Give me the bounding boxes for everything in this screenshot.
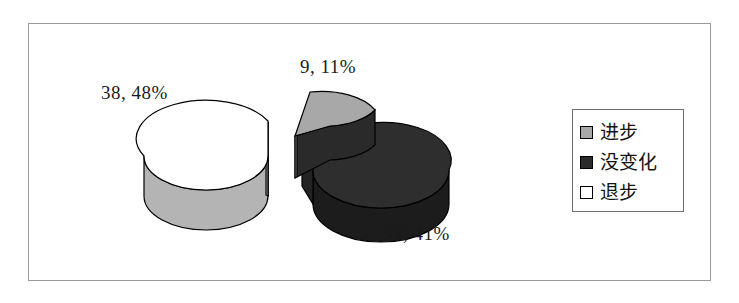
legend-swatch-progress xyxy=(580,126,593,139)
legend-label-regress: 退步 xyxy=(600,183,638,202)
legend-swatch-nochange xyxy=(580,156,593,169)
legend-item-regress[interactable]: 退步 xyxy=(580,177,678,207)
chart-screenshot: 9, 11% 33, 41% 38, 48% 进步 没变化 退步 xyxy=(0,0,739,303)
data-label-regress: 38, 48% xyxy=(101,83,168,102)
pie-slice-regress-top xyxy=(136,100,268,190)
legend-label-nochange: 没变化 xyxy=(600,153,657,172)
chart-legend: 进步 没变化 退步 xyxy=(572,109,684,212)
pie-slice-regress xyxy=(136,100,268,230)
legend-item-nochange[interactable]: 没变化 xyxy=(580,147,678,177)
legend-swatch-regress xyxy=(580,186,593,199)
legend-label-progress: 进步 xyxy=(600,123,638,142)
legend-item-list: 进步 没变化 退步 xyxy=(580,117,678,207)
data-label-nochange: 33, 41% xyxy=(383,224,450,243)
data-label-progress: 9, 11% xyxy=(300,57,356,76)
pie-slice-progress-cut-face xyxy=(295,135,297,178)
legend-item-progress[interactable]: 进步 xyxy=(580,117,678,147)
